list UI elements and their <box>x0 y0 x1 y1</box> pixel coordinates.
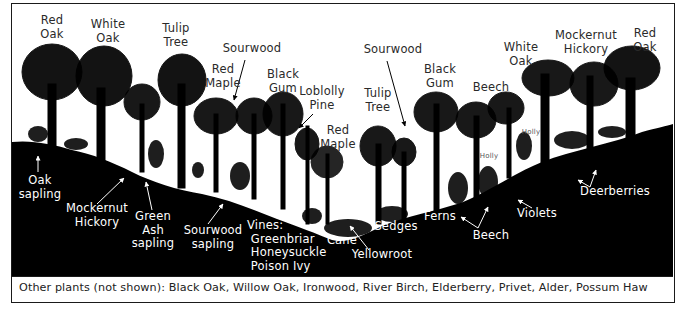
label-sourwood-left: Sourwood <box>220 42 284 56</box>
label-mockernut-hickory-lower: Mockernut Hickory <box>64 202 130 229</box>
label-red-maple-left: Red Maple <box>203 63 243 90</box>
label-cane: Cane <box>325 234 359 248</box>
label-green-ash-sapling: Green Ash sapling <box>131 210 175 251</box>
label-oak-sapling: Oak sapling <box>18 174 62 201</box>
label-red-oak-right: Red Oak <box>630 27 660 54</box>
label-sourwood-sapling: Sourwood sapling <box>181 224 245 251</box>
label-vines: Vines: Greenbriar Honeysuckle Poison Ivy <box>247 219 327 273</box>
label-beech-lower: Beech <box>470 229 512 243</box>
label-yellowroot: Yellowroot <box>349 248 415 262</box>
other-plants-caption: Other plants (not shown): Black Oak, Wil… <box>12 276 673 301</box>
label-ferns: Ferns <box>420 210 460 224</box>
label-loblolly-pine: Loblolly Pine <box>298 85 346 112</box>
label-tulip-tree-center: Tulip Tree <box>361 87 395 114</box>
label-black-gum-left: Black Gum <box>264 68 302 95</box>
label-tulip-tree-left: Tulip Tree <box>159 22 193 49</box>
label-white-oak-left: White Oak <box>90 18 126 45</box>
label-white-oak-right: White Oak <box>503 41 539 68</box>
label-sourwood-right: Sourwood <box>361 43 425 57</box>
diagram-frame: Red Oak White Oak Tulip Tree Red Maple S… <box>11 3 675 303</box>
label-holly-2: Holly <box>478 152 500 160</box>
forest-illustration: Red Oak White Oak Tulip Tree Red Maple S… <box>12 4 673 276</box>
label-red-maple-center: Red Maple <box>318 124 358 151</box>
label-deerberries: Deerberries <box>579 185 651 199</box>
label-red-oak-left: Red Oak <box>37 14 67 41</box>
label-beech-upper: Beech <box>470 81 512 95</box>
label-sedges: Sedges <box>374 220 418 234</box>
label-mockernut-hickory-upper: Mockernut Hickory <box>553 29 619 56</box>
label-holly-1: Holly <box>520 128 542 136</box>
label-black-gum-right: Black Gum <box>421 63 459 90</box>
label-violets: Violets <box>512 207 562 221</box>
